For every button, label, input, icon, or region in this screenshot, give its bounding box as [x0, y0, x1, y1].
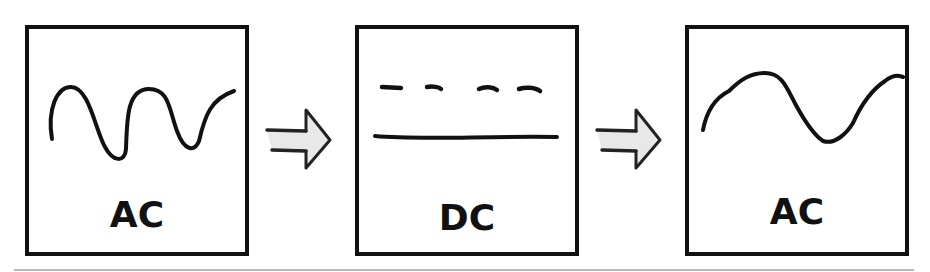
- stage-label-ac-output: AC: [689, 191, 905, 232]
- stage-ac-input-box: AC: [25, 25, 249, 256]
- stage-label-ac-input: AC: [29, 194, 245, 235]
- bottom-divider: [14, 269, 914, 271]
- stage-label-dc: DC: [359, 197, 575, 238]
- right-arrow-icon: [594, 105, 664, 175]
- stage-dc-box: DC: [355, 25, 579, 256]
- stage-ac-output-box: AC: [685, 25, 909, 256]
- right-arrow-icon: [264, 105, 334, 175]
